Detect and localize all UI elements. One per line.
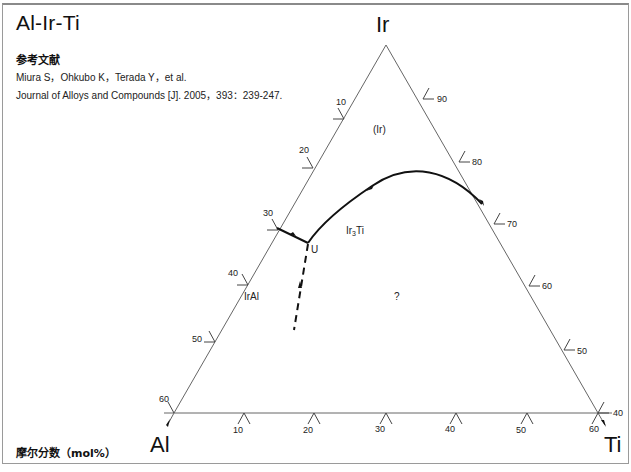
bottom-tick-20: 20 bbox=[303, 425, 313, 435]
corner-label-ti: Ti bbox=[604, 432, 622, 457]
right-tick-90: 90 bbox=[437, 94, 447, 104]
invariant-point-u: U bbox=[311, 244, 318, 255]
right-tick-40: 40 bbox=[613, 408, 623, 418]
right-tick-70: 70 bbox=[507, 219, 517, 229]
ti-arrow-head-icon bbox=[601, 420, 606, 427]
phase-label-unknown: ? bbox=[394, 291, 400, 302]
left-tick-10: 10 bbox=[336, 97, 346, 107]
liquidus-curve-ir-ir3ti bbox=[308, 171, 482, 243]
bottom-tick-40: 40 bbox=[445, 424, 455, 434]
left-tick-40: 40 bbox=[228, 268, 238, 278]
bottom-tick-10: 10 bbox=[233, 425, 243, 435]
phase-label-ir: (Ir) bbox=[373, 124, 386, 135]
right-axis bbox=[386, 45, 598, 413]
left-tick-60: 60 bbox=[159, 394, 169, 404]
left-tick-50: 50 bbox=[192, 334, 202, 344]
triangle-axes bbox=[164, 45, 612, 425]
bottom-axis-ticks bbox=[238, 413, 598, 424]
right-axis-ticks bbox=[423, 88, 609, 413]
corner-label-al: Al bbox=[150, 432, 170, 457]
phase-label-ir3ti: Ir3Ti bbox=[346, 225, 364, 237]
left-tick-20: 20 bbox=[299, 145, 309, 155]
right-tick-80: 80 bbox=[472, 157, 482, 167]
corner-label-ir: Ir bbox=[376, 12, 389, 37]
bottom-tick-50: 50 bbox=[516, 425, 526, 435]
bottom-tick-30: 30 bbox=[375, 424, 385, 434]
bottom-tick-60: 60 bbox=[589, 424, 599, 434]
phase-label-iral: IrAl bbox=[244, 291, 259, 302]
left-axis-ticks bbox=[168, 108, 344, 413]
right-tick-50: 50 bbox=[577, 346, 587, 356]
right-tick-60: 60 bbox=[542, 281, 552, 291]
al-arrow-head-icon bbox=[166, 419, 170, 427]
left-tick-30: 30 bbox=[263, 208, 273, 218]
liquidus-line-u-left bbox=[277, 228, 308, 243]
ternary-diagram: 10 20 30 40 50 60 90 80 70 60 50 40 10 2… bbox=[0, 0, 631, 472]
